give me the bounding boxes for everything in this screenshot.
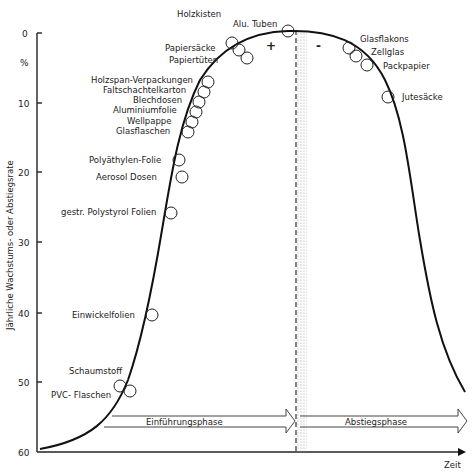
label-papiersaecke: Papiersäcke xyxy=(165,43,216,53)
y-tick-30: 30 xyxy=(18,238,30,248)
phase-label-left: Einführungsphase xyxy=(146,417,223,427)
label-faltschachtel: Faltschachtelkarton xyxy=(103,85,186,95)
chart: 0 10 20 30 40 50 60 % Jährliche Wachstum… xyxy=(0,0,474,475)
label-papiertueten: Papiertüten xyxy=(169,55,218,65)
phase-arrow-left: Einführungsphase xyxy=(104,409,295,433)
y-tick-60: 60 xyxy=(18,448,30,458)
y-axis-label: Jährliche Wachstums- oder Abstiegsrate xyxy=(5,160,15,331)
y-tick-50: 50 xyxy=(18,378,30,388)
label-polyaethylen: Polyäthylen-Folie xyxy=(89,155,161,165)
label-holzspan: Holzspan-Verpackungen xyxy=(91,75,193,85)
label-alufolie: Aluminiumfolie xyxy=(113,105,177,115)
label-schaumstoff: Schaumstoff xyxy=(69,366,123,376)
y-tick-0: 0 xyxy=(22,29,28,39)
label-alutuben: Alu. Tuben xyxy=(233,19,277,29)
x-axis: Zeit xyxy=(37,448,466,470)
label-packpapier: Packpapier xyxy=(383,61,430,71)
label-einwickel: Einwickelfolien xyxy=(72,310,135,320)
label-pvc: PVC- Flaschen xyxy=(51,390,111,400)
label-holzkisten: Holzkisten xyxy=(177,9,221,19)
phase-label-right: Abstiegsphase xyxy=(345,417,407,427)
label-glasflakons: Glasflakons xyxy=(360,34,409,44)
y-tick-20: 20 xyxy=(18,168,30,178)
plus-sign: + xyxy=(266,39,276,53)
label-zellglas: Zellglas xyxy=(371,47,405,57)
minus-sign: - xyxy=(316,39,321,53)
y-axis: 0 10 20 30 40 50 60 % Jährliche Wachstum… xyxy=(5,29,42,458)
label-wellpappe: Wellpappe xyxy=(127,116,171,126)
phase-divider xyxy=(296,30,307,452)
label-polystyrol: gestr. Polystyrol Folien xyxy=(61,207,156,217)
label-aerosol: Aerosol Dosen xyxy=(96,172,157,182)
y-unit: % xyxy=(20,58,29,68)
phase-arrow-right: Abstiegsphase xyxy=(300,409,467,433)
point-labels: Holzkisten Alu. Tuben Papiersäcke Papier… xyxy=(51,9,443,400)
y-tick-10: 10 xyxy=(18,99,30,109)
label-jutesaecke: Jutesäcke xyxy=(401,92,443,102)
y-tick-40: 40 xyxy=(18,309,30,319)
label-glasflaschen: Glasflaschen xyxy=(116,126,170,136)
label-blechdosen: Blechdosen xyxy=(133,95,182,105)
x-axis-label: Zeit xyxy=(444,460,461,470)
